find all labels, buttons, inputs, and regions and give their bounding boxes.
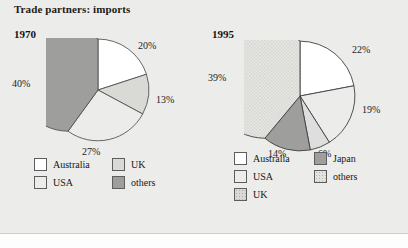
pie-1970-svg	[46, 38, 150, 142]
pie-label-uk-1970: 13%	[156, 94, 174, 105]
legend-row: USA others	[34, 176, 190, 189]
legend-row: Australia UK	[34, 158, 190, 171]
legend-label: USA	[53, 177, 73, 188]
legend-swatch-others-icon	[314, 170, 327, 183]
pie-label-usa-1970: 27%	[82, 146, 100, 157]
legend-swatch-uk-icon	[234, 188, 247, 201]
legend-item-uk[interactable]: UK	[112, 158, 190, 171]
legend-row: USA others	[234, 170, 394, 183]
legend-item-japan[interactable]: Japan	[314, 152, 394, 165]
year-label-1970: 1970	[14, 28, 36, 40]
legend-item-uk[interactable]: UK	[234, 188, 314, 201]
legend-label: others	[131, 177, 155, 188]
legend-row: Australia Japan	[234, 152, 394, 165]
legend-label: Australia	[253, 153, 290, 164]
legend-swatch-others-icon	[112, 176, 125, 189]
legend-1970: Australia UK USA others	[34, 158, 190, 194]
chart-title: Trade partners: imports	[14, 3, 130, 15]
legend-label: Japan	[333, 153, 356, 164]
legend-swatch-usa-icon	[34, 176, 47, 189]
pie-label-usa-1995: 19%	[362, 104, 380, 115]
legend-swatch-usa-icon	[234, 170, 247, 183]
pie-label-australia-1970: 20%	[138, 40, 156, 51]
legend-label: UK	[253, 189, 267, 200]
legend-row: UK	[234, 188, 394, 201]
pie-chart-1995: 1995	[206, 24, 406, 224]
legend-item-others[interactable]: others	[314, 170, 394, 183]
legend-swatch-australia-icon	[234, 152, 247, 165]
legend-1995: Australia Japan USA others	[234, 152, 394, 206]
legend-label: others	[333, 171, 357, 182]
legend-item-usa[interactable]: USA	[234, 170, 314, 183]
legend-item-usa[interactable]: USA	[34, 176, 112, 189]
legend-swatch-uk-icon	[112, 158, 125, 171]
legend-swatch-australia-icon	[34, 158, 47, 171]
legend-label: UK	[131, 159, 145, 170]
chart-figure: Trade partners: imports 1970 20% 13% 27%…	[0, 0, 408, 248]
pie-chart-1970: 1970 20% 13% 27% 40% Australia	[4, 24, 204, 224]
pie-label-others-1995: 39%	[208, 72, 226, 83]
year-label-1995: 1995	[212, 28, 234, 40]
bottom-divider	[0, 233, 408, 248]
legend-swatch-japan-icon	[314, 152, 327, 165]
pie-label-australia-1995: 22%	[352, 44, 370, 55]
pie-1995-graphic	[244, 40, 356, 152]
legend-label: USA	[253, 171, 273, 182]
pie-label-others-1970: 40%	[12, 78, 30, 89]
pie-1995-svg	[244, 40, 356, 152]
legend-item-australia[interactable]: Australia	[234, 152, 314, 165]
legend-label: Australia	[53, 159, 90, 170]
legend-item-australia[interactable]: Australia	[34, 158, 112, 171]
pie-1970-graphic	[46, 38, 150, 142]
legend-item-others[interactable]: others	[112, 176, 190, 189]
